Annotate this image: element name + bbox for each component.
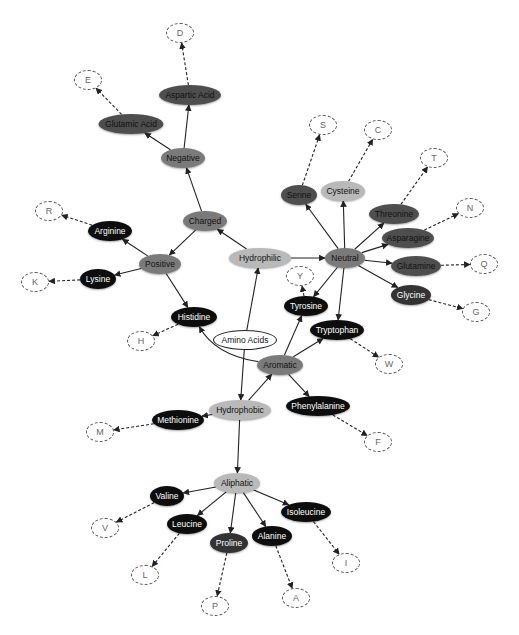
dashed-edge xyxy=(441,264,470,265)
edge xyxy=(145,133,171,150)
dashed-edge xyxy=(302,135,319,185)
edge xyxy=(217,229,246,249)
category-node: Hydrophobic xyxy=(209,400,271,420)
letter-code-node: R xyxy=(35,201,63,221)
letter-code-node: D xyxy=(166,23,194,43)
letter-code-node: C xyxy=(364,120,392,140)
category-node: Cysteine xyxy=(321,181,365,201)
letter-code-node: T xyxy=(420,148,448,168)
category-node: Hydrophilic xyxy=(229,248,291,268)
category-node: Lysine xyxy=(80,269,116,289)
category-node: Proline xyxy=(210,533,248,553)
category-node: Asparagine xyxy=(382,228,434,248)
letter-code-node: I xyxy=(332,553,360,573)
letter-code-node: P xyxy=(201,596,229,616)
dashed-edge xyxy=(302,286,304,296)
edge xyxy=(249,374,272,400)
edge xyxy=(243,493,265,527)
amino-acid-diagram: Amino AcidsHydrophilicHydrophobicCharged… xyxy=(0,0,519,635)
category-node: Aromatic xyxy=(257,355,303,375)
category-node: Amino Acids xyxy=(213,330,277,350)
category-node: Threonine xyxy=(369,204,419,224)
dashed-edge xyxy=(217,553,227,596)
dashed-edge xyxy=(276,546,292,589)
category-node: Isoleucine xyxy=(281,502,331,522)
edge xyxy=(338,268,344,320)
edge xyxy=(183,487,216,493)
category-node: Methionine xyxy=(152,410,204,430)
letter-code-node: W xyxy=(375,354,403,374)
letter-code-node: N xyxy=(456,198,484,218)
letter-code-node: A xyxy=(282,588,310,608)
dashed-edge xyxy=(349,139,373,181)
letter-code-node: K xyxy=(21,272,49,292)
category-node: Glutamic Acid xyxy=(99,114,164,134)
category-node: Glycine xyxy=(391,285,431,305)
letter-code-node: L xyxy=(131,565,159,585)
edge xyxy=(284,316,301,355)
category-node: Alanine xyxy=(252,526,292,546)
category-node: Aliphatic xyxy=(214,473,260,493)
category-node: Serine xyxy=(281,185,317,205)
dashed-edge xyxy=(152,533,179,566)
edge xyxy=(197,492,226,516)
letter-code-node: M xyxy=(86,422,114,442)
letter-code-node: Q xyxy=(470,254,498,274)
dashed-edge xyxy=(62,215,92,225)
edge xyxy=(166,274,188,308)
edge xyxy=(202,414,212,416)
category-node: Tyrosine xyxy=(284,296,328,316)
category-node: Glutamine xyxy=(391,256,441,276)
category-node: Positive xyxy=(139,254,181,274)
edge xyxy=(293,339,323,357)
edge xyxy=(186,168,201,211)
edge xyxy=(289,374,310,396)
category-node: Leucine xyxy=(167,514,207,534)
dashed-edge xyxy=(333,415,367,436)
category-node: Valine xyxy=(150,486,184,506)
edge xyxy=(362,244,388,252)
category-node: Aspartic Acid xyxy=(159,85,221,105)
edge xyxy=(314,267,338,296)
edge xyxy=(115,269,142,275)
dashed-edge xyxy=(313,522,339,555)
dashed-edge xyxy=(49,280,80,281)
category-node: Arginine xyxy=(88,221,132,241)
letter-code-node: S xyxy=(309,115,337,135)
edge xyxy=(169,230,195,255)
dashed-edge xyxy=(401,167,428,204)
letter-code-node: F xyxy=(364,432,392,452)
letter-code-node: Y xyxy=(286,266,314,286)
dashed-edge xyxy=(429,300,463,309)
edge xyxy=(254,490,289,505)
dashed-edge xyxy=(182,43,189,85)
edge xyxy=(230,493,235,533)
letter-code-node: G xyxy=(462,302,490,322)
dashed-edge xyxy=(114,424,154,430)
edge xyxy=(237,420,239,473)
letter-code-node: V xyxy=(91,518,119,538)
category-node: Phenylalanine xyxy=(286,396,350,416)
category-node: Histidine xyxy=(171,307,217,327)
dashed-edge xyxy=(96,88,122,114)
letter-code-node: E xyxy=(74,70,102,90)
category-node: Negative xyxy=(161,148,205,168)
edge xyxy=(306,204,338,248)
category-node: Neutral xyxy=(325,248,365,268)
edge xyxy=(247,268,258,330)
category-node: Charged xyxy=(183,211,227,231)
edge xyxy=(355,223,384,249)
dashed-edge xyxy=(350,339,378,358)
edge xyxy=(343,201,344,248)
edge xyxy=(184,105,189,148)
dashed-edge xyxy=(424,214,458,231)
dashed-edge xyxy=(116,503,154,523)
letter-code-node: H xyxy=(127,331,155,351)
edge xyxy=(122,239,147,256)
category-node: Tryptophan xyxy=(310,320,364,340)
dashed-edge xyxy=(153,324,178,335)
edge xyxy=(365,260,392,263)
